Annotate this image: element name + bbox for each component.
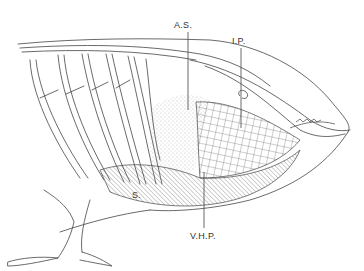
- label-s: S.: [132, 190, 141, 200]
- anatomical-diagram: [0, 0, 364, 271]
- vertebral-column: [20, 46, 270, 86]
- label-vhp: V.H.P.: [190, 231, 216, 241]
- foot-left: [8, 257, 58, 266]
- cloaca-loop: [239, 90, 248, 98]
- label-ip: I.P.: [232, 36, 246, 46]
- label-as: A.S.: [174, 20, 192, 30]
- foot-right: [80, 252, 112, 266]
- leg: [44, 190, 74, 258]
